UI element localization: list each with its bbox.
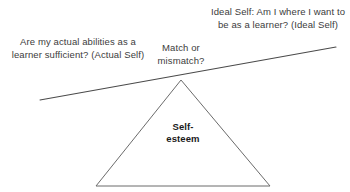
ideal-self-label: Ideal Self: Am I where I want to be as a…: [210, 6, 346, 31]
self-esteem-label: Self- esteem: [146, 121, 220, 145]
diagram-canvas: Are my actual abilities as a learner suf…: [0, 0, 350, 192]
match-or-mismatch-label: Match or mismatch?: [142, 42, 220, 67]
actual-self-label: Are my actual abilities as a learner suf…: [10, 36, 146, 61]
